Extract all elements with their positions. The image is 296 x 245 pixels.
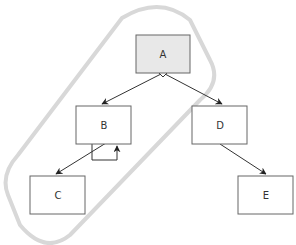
node-b[interactable]: B <box>76 106 131 144</box>
edge-d-e <box>220 144 266 174</box>
node-a[interactable]: A <box>136 35 190 73</box>
node-c-label: C <box>55 190 62 201</box>
edge-b-self <box>92 144 117 160</box>
edge-a-b <box>102 74 161 104</box>
edge-b-c <box>56 143 106 174</box>
tree-diagram: A B C D E <box>0 0 296 245</box>
node-a-label: A <box>160 49 167 60</box>
node-d-label: D <box>216 120 224 131</box>
node-b-label: B <box>101 120 108 131</box>
node-c[interactable]: C <box>30 176 85 214</box>
node-d[interactable]: D <box>192 106 247 144</box>
node-e[interactable]: E <box>238 176 293 214</box>
node-e-label: E <box>263 190 269 201</box>
